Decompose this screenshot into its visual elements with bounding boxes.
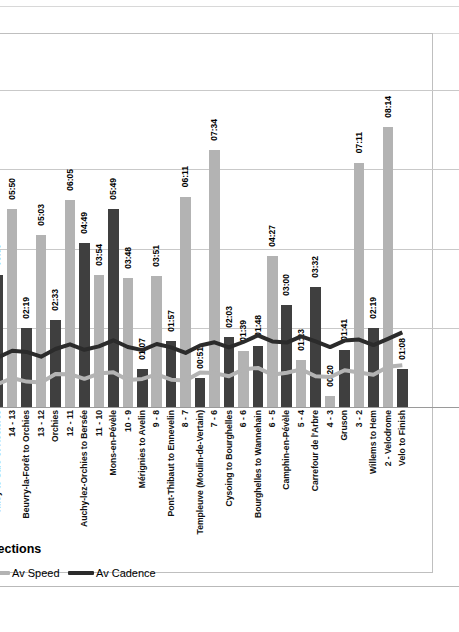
bar <box>21 328 32 407</box>
bar-value-label: 02:19 <box>369 297 378 319</box>
bar <box>7 209 18 407</box>
x-axis-label: Orchies <box>51 410 60 442</box>
bar-value-label: 01:39 <box>239 320 248 342</box>
bar-value-label: 03:32 <box>311 256 320 278</box>
bar-value-label: 01:57 <box>167 310 176 332</box>
bar-value-label: 02:03 <box>225 306 234 328</box>
bar <box>368 328 379 407</box>
x-axis-labels: 15 - 14Tilloy to Sars-et-Rosières14 - 13… <box>0 410 459 530</box>
page-divider-top <box>0 6 459 7</box>
bar <box>108 209 119 407</box>
x-axis-label: 8 - 7 <box>181 410 190 427</box>
bar <box>354 163 365 407</box>
x-axis-label: Pont-Thibaut to Ennevelin <box>167 410 176 516</box>
x-axis-label: Willems to Hem <box>369 410 378 474</box>
bar-value-label: 04:27 <box>268 225 277 247</box>
bar-value-label: 00:51 <box>196 347 205 369</box>
x-axis-label: Mérignies to Avelin <box>138 410 147 488</box>
x-axis-label: Beuvry-la-Forêt to Orchies <box>22 410 31 518</box>
bar <box>166 341 177 407</box>
bar <box>180 197 191 407</box>
bar-value-label: 03:54 <box>95 244 104 266</box>
x-axis-line <box>0 407 459 408</box>
bar-value-label: 01:07 <box>138 338 147 360</box>
x-axis-label: Tilloy to Sars-et-Rosières <box>0 410 2 513</box>
x-axis-label: 4 - 3 <box>326 410 335 427</box>
bar <box>339 350 350 407</box>
x-axis-label: Templeuve (Moulin-de-Vertain) <box>196 410 205 534</box>
x-axis-label: 13 - 12 <box>37 410 46 437</box>
bar-value-label: 06:05 <box>66 169 75 191</box>
bar-value-label: 06:11 <box>181 166 190 187</box>
x-axis-label: 5 - 4 <box>297 410 306 427</box>
bar <box>195 378 206 407</box>
bar-value-label: 05:49 <box>109 178 118 200</box>
bar-value-label: 07:11 <box>355 132 364 153</box>
bar <box>65 200 76 407</box>
x-axis-label: Bourghelles to Wannehain <box>254 410 263 518</box>
bar-value-label: 04:49 <box>80 212 89 234</box>
x-axis-label: Auchy-lez-Orchies to Bersée <box>80 410 89 527</box>
bar <box>94 275 105 407</box>
legend-swatch <box>0 571 10 575</box>
bar <box>253 346 264 407</box>
bar-value-label: 01:23 <box>297 329 306 351</box>
bar <box>397 369 408 407</box>
bar-value-label: 02:33 <box>51 289 60 311</box>
bar <box>310 287 321 407</box>
x-axis-label: 7 - 6 <box>210 410 219 427</box>
bar-value-label: 05:03 <box>37 204 46 226</box>
x-axis-label: 9 - 8 <box>152 410 161 427</box>
bar <box>383 127 394 407</box>
x-axis-label: 12 - 11 <box>66 410 75 436</box>
x-axis-label: 6 - 5 <box>268 410 277 427</box>
bar-value-label: 01:48 <box>254 315 263 337</box>
bar-value-label: 03:48 <box>124 247 133 269</box>
x-axis-title: bble Sections <box>0 542 41 556</box>
x-axis-label: Velo to Finish <box>398 410 407 466</box>
bar-value-label: 01:41 <box>340 319 349 341</box>
bar <box>123 278 134 407</box>
bar <box>238 351 249 407</box>
bar <box>224 337 235 407</box>
legend-divider <box>0 586 459 587</box>
bar <box>267 256 278 407</box>
legend-item[interactable]: Av Speed <box>0 566 60 580</box>
bar-value-label: 03:51 <box>152 245 161 267</box>
legend-swatch <box>68 571 94 575</box>
legend-item[interactable]: Av Cadence <box>68 566 156 580</box>
plot-area: 01:3503:5305:5002:1905:0302:3306:0504:49… <box>0 90 459 407</box>
bar <box>0 275 3 407</box>
bar <box>281 305 292 407</box>
legend-label: Av Cadence <box>96 567 156 579</box>
x-axis-label: 2 - Velodrome <box>384 410 393 466</box>
x-axis-label: 11 - 10 <box>95 410 104 436</box>
bar-value-label: 00:20 <box>326 365 335 387</box>
x-axis-label: Mons-en-Pévèle <box>109 410 118 475</box>
bar-series: 01:3503:5305:5002:1905:0302:3306:0504:49… <box>0 90 459 407</box>
bar-value-label: 07:34 <box>210 119 219 141</box>
chart-screenshot: erage 01:3503:5305:5002:1905:0302:3306:0… <box>0 0 459 632</box>
bar-value-label: 03:00 <box>282 274 291 296</box>
bar-value-label: 03:53 <box>0 244 2 266</box>
x-axis-label: Cysoing to Bourghelles <box>225 410 234 506</box>
bar-value-label: 05:50 <box>8 178 17 200</box>
bar <box>36 235 47 407</box>
x-axis-label: 14 - 13 <box>8 410 17 437</box>
bar-value-label: 02:19 <box>22 297 31 319</box>
bar-value-label: 01:08 <box>398 338 407 360</box>
bar <box>325 396 336 407</box>
bar <box>209 150 220 407</box>
legend-label: Av Speed <box>12 567 60 579</box>
x-axis-label: 6 - 6 <box>239 410 248 427</box>
bar <box>296 360 307 407</box>
bar <box>137 369 148 407</box>
bar-value-label: 08:14 <box>384 96 393 118</box>
bar <box>50 320 61 407</box>
x-axis-label: 10 - 9 <box>124 410 133 432</box>
x-axis-label: Gruson <box>340 410 349 441</box>
bar <box>79 243 90 407</box>
bar <box>151 276 162 407</box>
x-axis-label: Camphin-en-Pévèle <box>282 410 291 490</box>
x-axis-label: 3 - 2 <box>355 410 364 427</box>
